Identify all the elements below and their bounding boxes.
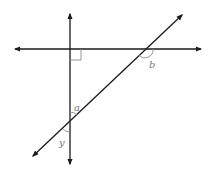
angle-label-y: y bbox=[58, 137, 65, 148]
angle-label-b: b bbox=[149, 59, 155, 70]
angle-label-a: a bbox=[74, 102, 80, 113]
geometry-diagram: b a y bbox=[0, 0, 208, 169]
diagram-svg: b a y bbox=[0, 0, 208, 169]
transversal-line bbox=[33, 15, 182, 156]
right-angle-marker bbox=[70, 49, 81, 60]
angle-y-arc bbox=[63, 129, 70, 132]
